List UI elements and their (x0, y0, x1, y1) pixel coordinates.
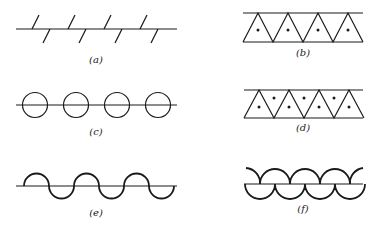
panel-label: (c) (89, 126, 103, 137)
panel-e: (e) (16, 174, 177, 219)
panel-a: (a) (16, 15, 177, 65)
panel-label: (e) (89, 207, 103, 218)
panel-label: (b) (296, 47, 310, 58)
panel-c: (c) (16, 93, 177, 138)
panel-d: (d) (244, 90, 364, 133)
figure-canvas: (a) (b) (c) (d) (e) (0, 0, 373, 231)
panel-label: (d) (296, 122, 310, 133)
panel-label: (f) (297, 203, 309, 214)
panel-b: (b) (243, 13, 363, 58)
panel-f: (f) (244, 168, 365, 214)
panel-label: (a) (89, 54, 103, 65)
